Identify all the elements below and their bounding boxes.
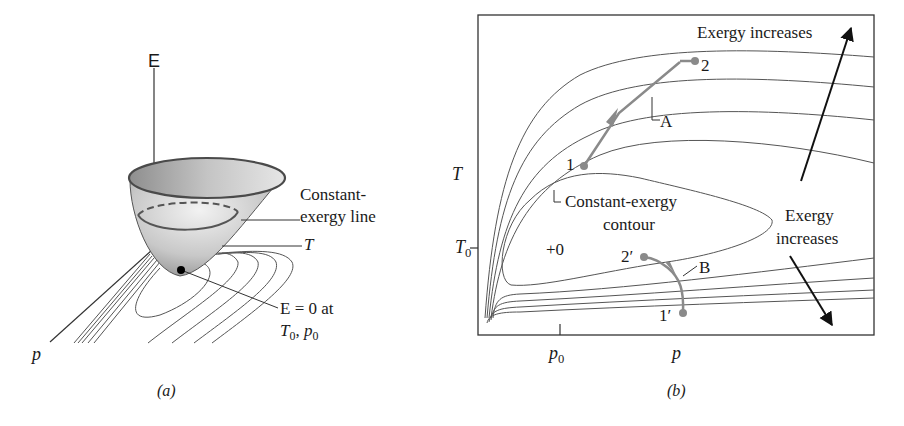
process-b-label: B (699, 259, 710, 276)
plot-frame (478, 15, 874, 335)
point-1-prime (679, 309, 687, 317)
panel-b-graphic (0, 0, 904, 426)
p-axis-label: p (672, 344, 681, 362)
exergy-increase-arrow-up (801, 28, 851, 181)
p0-subscript: 0 (558, 352, 564, 366)
p0-tick-label: p0 (549, 344, 564, 366)
process-a-label: A (660, 113, 672, 130)
t0-tick-label: T0 (455, 238, 471, 260)
dead-state-label: +0 (546, 241, 564, 258)
contours-upper (485, 51, 874, 318)
contour-label-1: Constant-exergy (565, 193, 677, 210)
point-2-prime-label: 2′ (621, 248, 633, 265)
point-1-prime-label: 1′ (659, 307, 671, 324)
point-2-prime (640, 253, 648, 261)
exergy-increase-arrow-down (790, 256, 832, 325)
point-1 (580, 162, 588, 170)
point-2-label: 2 (701, 57, 710, 74)
process-b-path (644, 257, 683, 313)
t0-symbol: T (455, 237, 465, 257)
panel-b-caption: (b) (667, 383, 686, 399)
t-axis-label: T (452, 165, 462, 183)
p0-symbol: p (549, 343, 558, 363)
label-b-leader (683, 266, 697, 276)
exergy-increases-right-label-1: Exergy (785, 207, 834, 224)
exergy-increases-right-label-2: increases (776, 230, 838, 247)
contour-label-2: contour (603, 216, 655, 233)
exergy-increases-top-label: Exergy increases (697, 24, 812, 41)
t0-subscript: 0 (465, 246, 471, 260)
contour-label-leader (554, 190, 561, 202)
point-1-label: 1 (566, 156, 575, 173)
